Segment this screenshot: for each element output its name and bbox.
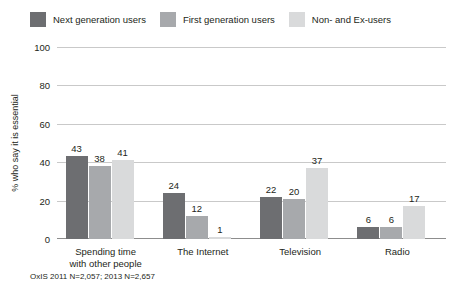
bar: 22	[260, 197, 282, 239]
bar-value-label: 41	[117, 147, 128, 158]
x-axis-tick-label: Spending timewith other people	[57, 246, 154, 269]
y-axis-tick-20: 20	[39, 195, 50, 206]
bar-chart: Next generation users First generation u…	[0, 0, 467, 292]
chart-legend: Next generation users First generation u…	[30, 12, 405, 27]
plot-area: 020406080100433841Spending timewith othe…	[57, 47, 446, 239]
bar-value-label: 20	[289, 186, 300, 197]
x-axis-tick-line: with other people	[57, 258, 154, 270]
bar-value-label: 6	[389, 214, 394, 225]
y-axis-tick-60: 60	[39, 118, 50, 129]
x-axis-tick-line: Television	[252, 246, 349, 258]
bar-group: 222037Television	[252, 47, 349, 239]
bar: 1	[209, 237, 231, 239]
chart-footnote: OxIS 2011 N=2,057; 2013 N=2,657	[30, 272, 155, 281]
y-axis-tick-80: 80	[39, 80, 50, 91]
y-axis-title: % who say it is essential	[8, 47, 22, 239]
bar-value-label: 1	[217, 224, 222, 235]
bar: 43	[66, 156, 88, 239]
x-axis-tick-line: Spending time	[57, 246, 154, 258]
y-axis-tick-40: 40	[39, 157, 50, 168]
legend-item-first-generation-users: First generation users	[160, 12, 275, 27]
legend-item-next-generation-users: Next generation users	[30, 12, 146, 27]
x-axis-tick-label: Television	[252, 246, 349, 258]
legend-item-non-and-ex-users: Non- and Ex-users	[289, 12, 391, 27]
bar: 37	[306, 168, 328, 239]
y-axis-tick-100: 100	[34, 42, 50, 53]
bar: 41	[112, 160, 134, 239]
x-axis-tick-label: The Internet	[154, 246, 251, 258]
bar-value-label: 37	[312, 155, 323, 166]
bar: 20	[283, 199, 305, 239]
legend-swatch-non-and-ex-users	[289, 12, 305, 27]
x-axis-tick-line: Radio	[349, 246, 446, 258]
bar: 6	[380, 227, 402, 239]
x-axis-tick-label: Radio	[349, 246, 446, 258]
y-axis-title-text: % who say it is essential	[10, 94, 20, 192]
bar-value-label: 22	[266, 184, 277, 195]
bar-value-label: 38	[94, 153, 105, 164]
bar-group: 433841Spending timewith other people	[57, 47, 154, 239]
bar-value-label: 6	[366, 214, 371, 225]
bar: 38	[89, 166, 111, 239]
bar: 6	[357, 227, 379, 239]
legend-label-next-generation-users: Next generation users	[53, 14, 146, 25]
legend-swatch-next-generation-users	[30, 12, 46, 27]
bar-group: 24121The Internet	[154, 47, 251, 239]
bar: 12	[186, 216, 208, 239]
bar: 24	[163, 193, 185, 239]
legend-label-first-generation-users: First generation users	[183, 14, 275, 25]
legend-label-non-and-ex-users: Non- and Ex-users	[312, 14, 391, 25]
x-axis-tick-line: The Internet	[154, 246, 251, 258]
bar-value-label: 43	[71, 143, 82, 154]
bar: 17	[403, 206, 425, 239]
bar-value-label: 24	[169, 180, 180, 191]
y-axis-tick-0: 0	[45, 234, 50, 245]
bar-value-label: 12	[192, 203, 203, 214]
bar-value-label: 17	[409, 193, 420, 204]
bar-group: 6617Radio	[349, 47, 446, 239]
legend-swatch-first-generation-users	[160, 12, 176, 27]
